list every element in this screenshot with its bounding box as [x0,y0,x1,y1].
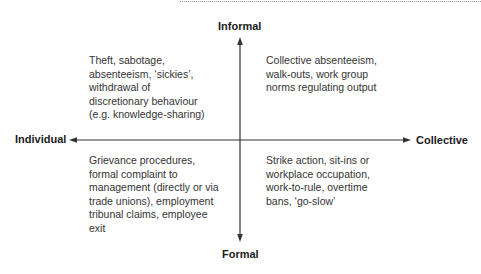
arrow-right-icon [403,137,411,143]
quadrant-collective-informal: Collective absenteeism, walk-outs, work … [266,54,377,95]
quadrant-axes [0,0,481,274]
axis-label-collective: Collective [416,134,468,147]
axis-label-informal: Informal [218,20,261,33]
axis-label-formal: Formal [222,248,259,261]
arrow-down-icon [237,234,243,242]
arrow-left-icon [69,137,77,143]
quadrant-individual-informal: Theft, sabotage, absenteeism, ‘sickies’,… [89,54,205,122]
axis-label-individual: Individual [15,133,66,146]
arrow-up-icon [237,37,243,45]
quadrant-collective-formal: Strike action, sit-ins or workplace occu… [266,154,370,208]
quadrant-individual-formal: Grievance procedures, formal complaint t… [89,154,219,235]
